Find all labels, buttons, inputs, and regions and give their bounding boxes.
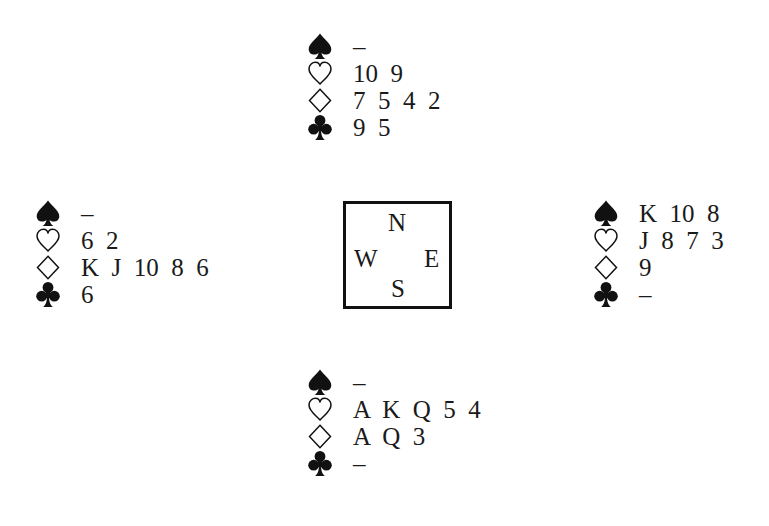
west-diamonds-cards: K J 10 8 6 bbox=[81, 254, 209, 281]
diamond-outline-icon bbox=[305, 87, 335, 114]
compass-south-label: S bbox=[391, 276, 405, 301]
north-hearts-cards: 10 9 bbox=[353, 60, 403, 87]
west-spades-cards: – bbox=[81, 200, 94, 227]
spade-icon bbox=[591, 200, 621, 227]
compass-north-label: N bbox=[388, 210, 406, 235]
south-hearts-row: A K Q 5 4 bbox=[305, 396, 481, 423]
west-clubs-cards: 6 bbox=[81, 281, 94, 308]
west-diamonds-row: K J 10 8 6 bbox=[33, 254, 209, 281]
east-clubs-cards: – bbox=[639, 281, 652, 308]
east-hearts-cards: J 8 7 3 bbox=[639, 227, 724, 254]
west-hearts-cards: 6 2 bbox=[81, 227, 119, 254]
compass-box: N W E S bbox=[343, 201, 452, 309]
compass-east-label: E bbox=[424, 246, 439, 271]
diamond-outline-icon bbox=[305, 423, 335, 450]
spade-icon bbox=[305, 33, 335, 60]
east-clubs-row: – bbox=[591, 281, 724, 308]
north-diamonds-row: 7 5 4 2 bbox=[305, 87, 441, 114]
west-clubs-row: 6 bbox=[33, 281, 209, 308]
south-hearts-cards: A K Q 5 4 bbox=[353, 396, 481, 423]
diamond-outline-icon bbox=[33, 254, 63, 281]
south-diamonds-cards: A Q 3 bbox=[353, 423, 425, 450]
heart-outline-icon bbox=[33, 227, 63, 254]
east-diamonds-row: 9 bbox=[591, 254, 724, 281]
compass-west-label: W bbox=[354, 246, 378, 271]
south-diamonds-row: A Q 3 bbox=[305, 423, 481, 450]
club-icon bbox=[591, 281, 621, 308]
north-clubs-cards: 9 5 bbox=[353, 114, 391, 141]
north-diamonds-cards: 7 5 4 2 bbox=[353, 87, 441, 114]
north-spades-cards: – bbox=[353, 33, 366, 60]
club-icon bbox=[33, 281, 63, 308]
north-clubs-row: 9 5 bbox=[305, 114, 441, 141]
east-spades-cards: K 10 8 bbox=[639, 200, 720, 227]
north-hearts-row: 10 9 bbox=[305, 60, 441, 87]
club-icon bbox=[305, 114, 335, 141]
west-spades-row: – bbox=[33, 200, 209, 227]
west-hearts-row: 6 2 bbox=[33, 227, 209, 254]
south-clubs-cards: – bbox=[353, 450, 366, 477]
spade-icon bbox=[305, 369, 335, 396]
club-icon bbox=[305, 450, 335, 477]
east-diamonds-cards: 9 bbox=[639, 254, 652, 281]
north-hand: – 10 9 7 5 4 2 9 5 bbox=[305, 33, 441, 141]
south-clubs-row: – bbox=[305, 450, 481, 477]
heart-outline-icon bbox=[305, 60, 335, 87]
east-spades-row: K 10 8 bbox=[591, 200, 724, 227]
west-hand: – 6 2 K J 10 8 6 6 bbox=[33, 200, 209, 308]
south-hand: – A K Q 5 4 A Q 3 – bbox=[305, 369, 481, 477]
south-spades-cards: – bbox=[353, 369, 366, 396]
north-spades-row: – bbox=[305, 33, 441, 60]
south-spades-row: – bbox=[305, 369, 481, 396]
heart-outline-icon bbox=[305, 396, 335, 423]
east-hand: K 10 8 J 8 7 3 9 – bbox=[591, 200, 724, 308]
diamond-outline-icon bbox=[591, 254, 621, 281]
east-hearts-row: J 8 7 3 bbox=[591, 227, 724, 254]
heart-outline-icon bbox=[591, 227, 621, 254]
spade-icon bbox=[33, 200, 63, 227]
